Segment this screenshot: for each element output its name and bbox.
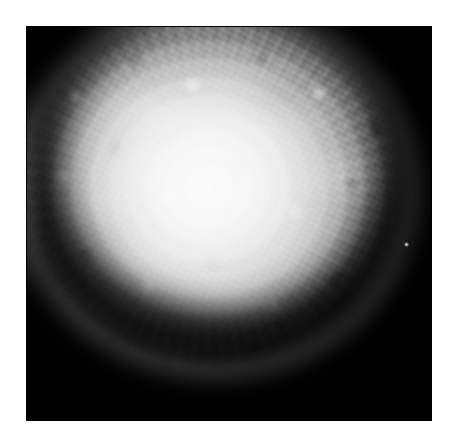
- figure-page: [0, 0, 458, 448]
- specular-speck-icon: [404, 242, 409, 247]
- specimen-image: [26, 26, 432, 421]
- image-frame: [26, 26, 432, 421]
- frame-vignette: [26, 26, 432, 421]
